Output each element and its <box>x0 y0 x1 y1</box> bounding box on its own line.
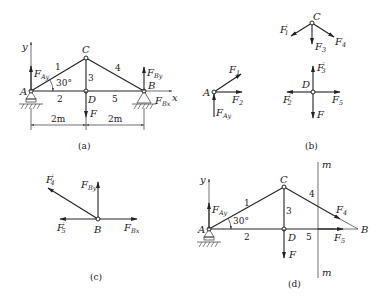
panel-b: C F′1 F3 F4 A F1 F2 FAy D F′3 F′2 F5 <box>202 11 346 151</box>
panel-d: y m m 1 2 3 4 5 30° <box>197 159 368 289</box>
member-4-label: 4 <box>309 189 315 199</box>
free-body-c: C F′1 F3 F4 <box>279 11 346 54</box>
force-f-label: F <box>89 108 98 119</box>
force-fbx-label: FBx <box>154 95 171 108</box>
force-f5-label: F5 <box>333 232 345 245</box>
member-3-label: 3 <box>88 73 94 83</box>
force-fay-label: FAy <box>33 68 49 81</box>
force-f2-prime-label: F′2 <box>282 93 292 107</box>
member-1-label: 1 <box>55 62 61 72</box>
force-f4-prime-label: F′4 <box>45 173 55 187</box>
force-f4-label: F4 <box>334 36 346 49</box>
angle-arc <box>228 218 231 229</box>
truss-figure: y x 1 2 3 4 5 30° <box>0 0 382 301</box>
force-f4-label: F4 <box>335 204 347 217</box>
force-f-label: F <box>288 249 297 260</box>
node-c-label: C <box>82 44 90 55</box>
caption-a: (a) <box>78 141 90 151</box>
force-f1-prime-label: F′1 <box>279 23 289 37</box>
force-fay-label: FAy <box>211 204 227 217</box>
pin-support-b <box>132 91 156 109</box>
force-f4-prime-arrow <box>48 188 98 219</box>
node-b <box>96 217 100 221</box>
caption-b: (b) <box>305 141 318 151</box>
x-axis-label: x <box>172 92 178 103</box>
node-a <box>212 90 216 94</box>
caption-c: (c) <box>90 272 102 282</box>
angle-arc <box>50 80 53 91</box>
caption-d: (d) <box>288 279 301 289</box>
node-d <box>311 90 315 94</box>
panel-a: y x 1 2 3 4 5 30° <box>19 41 178 151</box>
node-a-label: A <box>202 87 210 98</box>
angle-label: 30° <box>56 78 72 88</box>
node-b-label: B <box>93 224 101 235</box>
force-f3-label: F3 <box>314 41 326 54</box>
force-f-label: F <box>316 109 325 120</box>
node-a-label: A <box>197 224 205 235</box>
node-b-label: B <box>360 224 368 235</box>
y-axis-label: y <box>199 174 206 185</box>
dim-label-1: 2m <box>51 114 66 124</box>
member-5-label: 5 <box>112 94 118 104</box>
member-4-label: 4 <box>115 63 121 73</box>
panel-c: B F′4 FBy F′5 FBx (c) <box>45 173 140 282</box>
member-1-label: 1 <box>244 198 250 208</box>
section-label-top: m <box>322 159 331 170</box>
force-f5-prime-label: F′5 <box>56 221 66 235</box>
node-d-label: D <box>87 94 96 105</box>
force-f2-label: F2 <box>231 94 243 107</box>
free-body-d: D F′3 F′2 F5 F <box>282 61 343 120</box>
node-a-label: A <box>19 86 27 97</box>
member-4-cut <box>340 219 358 229</box>
free-body-a: A F1 F2 FAy <box>202 64 243 120</box>
node-c <box>84 56 88 60</box>
node-d-label: D <box>287 232 296 243</box>
node-c-label: C <box>313 11 321 22</box>
force-fby-label: FBy <box>80 179 97 192</box>
node-c-label: C <box>280 174 288 185</box>
node-b-label: B <box>147 80 155 91</box>
member-2-label: 2 <box>57 94 63 104</box>
dim-label-2: 2m <box>108 114 123 124</box>
y-axis-label: y <box>21 41 28 52</box>
force-f1-prime-arrow <box>291 23 312 36</box>
member-3-label: 3 <box>286 206 292 216</box>
force-fby-label: FBy <box>146 67 163 80</box>
angle-label: 30° <box>233 216 249 226</box>
force-f5-label: F5 <box>331 94 343 107</box>
node-c <box>282 185 286 189</box>
force-fbx-label: FBx <box>123 222 140 235</box>
member-2-label: 2 <box>244 232 250 242</box>
node-d-label: D <box>301 79 310 90</box>
force-f1-label: F1 <box>228 64 240 77</box>
force-f4-arrow <box>312 23 334 37</box>
force-fay-label: FAy <box>215 107 231 120</box>
section-label-bottom: m <box>322 267 331 278</box>
force-f3-prime-label: F′3 <box>316 61 326 75</box>
member-5-label: 5 <box>306 232 312 242</box>
